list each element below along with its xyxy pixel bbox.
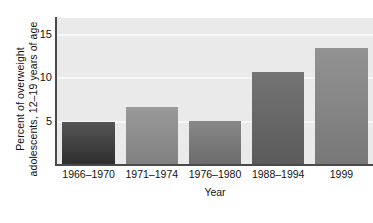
plot-area <box>57 18 373 165</box>
bar-1999 <box>315 48 367 165</box>
y-tick-label-15: 15 <box>22 29 52 40</box>
y-tick-label-10: 10 <box>22 72 52 83</box>
clipped-caption <box>0 218 373 223</box>
chart-figure: Percent of overweight adolescents, 12–19… <box>0 0 373 223</box>
bar-1976–1980 <box>189 121 241 165</box>
x-axis-line <box>55 164 373 166</box>
y-tick-label-5: 5 <box>22 116 52 127</box>
y-axis-line <box>55 17 57 166</box>
x-tick-label-1971–1974: 1971–1974 <box>120 168 183 180</box>
bar-1988–1994 <box>252 72 304 165</box>
x-tick-label-1988–1994: 1988–1994 <box>247 168 310 180</box>
x-axis-title: Year <box>57 186 373 198</box>
y-axis-ticks: 51015 <box>18 0 52 223</box>
gridline-15 <box>57 34 373 36</box>
x-tick-label-1966–1970: 1966–1970 <box>57 168 120 180</box>
x-tick-label-1976–1980: 1976–1980 <box>183 168 246 180</box>
x-axis-ticks: 1966–19701971–19741976–19801988–19941999 <box>57 168 373 184</box>
bar-1971–1974 <box>126 107 178 165</box>
x-tick-label-1999: 1999 <box>310 168 373 180</box>
bar-1966–1970 <box>62 122 114 165</box>
